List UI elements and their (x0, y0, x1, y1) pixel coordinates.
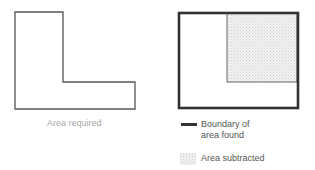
legend-boundary-line2: area found (201, 130, 244, 141)
caption-area-required: Area required (47, 118, 102, 129)
legend-shade-swatch-icon (180, 153, 196, 165)
shaded-subtracted-area (227, 13, 297, 82)
legend-boundary-line1: Boundary of (201, 119, 250, 130)
legend-thick-line-icon (181, 123, 197, 126)
legend-area-subtracted: Area subtracted (201, 153, 265, 164)
l-shape-area-required (15, 12, 135, 109)
diagram-canvas (0, 0, 315, 170)
